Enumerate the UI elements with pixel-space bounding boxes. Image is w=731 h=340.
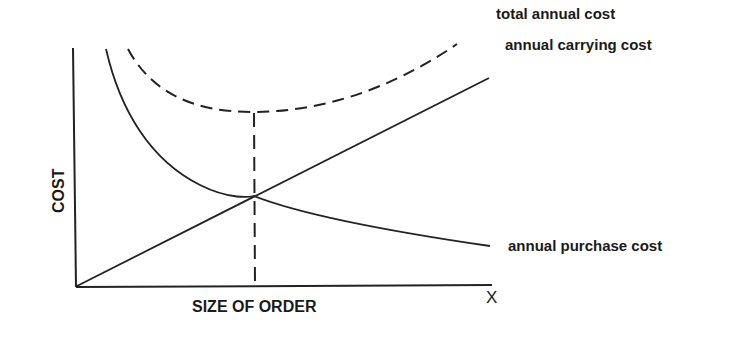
x-axis-end-label: X <box>486 288 497 308</box>
label-annual-purchase-cost: annual purchase cost <box>508 237 662 254</box>
y-axis-title: COST <box>50 169 68 213</box>
label-total-annual-cost: total annual cost <box>496 5 615 22</box>
purchase-cost-curve <box>106 49 490 246</box>
y-axis <box>73 48 76 287</box>
optimum-dashed-line <box>254 113 255 286</box>
carrying-cost-line <box>77 78 489 286</box>
label-annual-carrying-cost: annual carrying cost <box>505 36 652 53</box>
x-axis-title: SIZE OF ORDER <box>192 298 316 316</box>
total-cost-curve <box>128 44 457 112</box>
x-axis <box>76 285 492 287</box>
